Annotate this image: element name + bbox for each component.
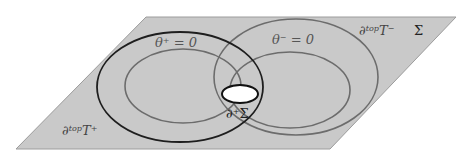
partial-symbol: ∂ (226, 106, 233, 121)
dplus-sigma-hole (222, 85, 258, 103)
theta-minus-eq: = 0 (287, 32, 314, 47)
theta-plus-eq: = 0 (170, 35, 197, 50)
minus-sup: − (388, 24, 395, 33)
partial-symbol: ∂ (359, 23, 366, 38)
sigma-label: Σ (414, 24, 423, 37)
dplus-sigma-label: ∂+Σ (226, 107, 249, 120)
dtop-t-minus-label: ∂topT− (359, 24, 394, 37)
partial-symbol: ∂ (62, 123, 69, 138)
theta-minus-label: θ− = 0 (272, 33, 314, 46)
theta-plus-symbol: θ (155, 35, 163, 50)
t-symbol: T (379, 23, 388, 38)
sigma-symbol: Σ (239, 106, 248, 121)
top-sup: top (366, 24, 379, 33)
theta-plus-sup: + (163, 36, 170, 45)
theta-minus-sup: − (280, 33, 287, 42)
diagram-canvas: θ+ = 0 θ− = 0 ∂topT− Σ ∂topT+ ∂+Σ (0, 0, 469, 159)
theta-minus-symbol: θ (272, 32, 280, 47)
t-symbol: T (82, 123, 91, 138)
plus-sup: + (91, 124, 98, 133)
dtop-t-plus-label: ∂topT+ (62, 124, 97, 137)
theta-plus-label: θ+ = 0 (155, 36, 197, 49)
top-sup: top (69, 124, 82, 133)
